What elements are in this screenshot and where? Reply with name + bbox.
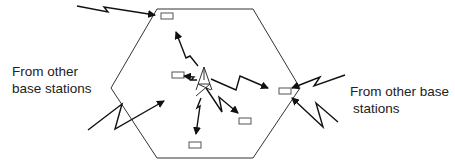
interference-right-upper <box>292 75 345 88</box>
left-label-line1: From other <box>12 63 92 80</box>
left-label-line2: base stations <box>12 80 92 97</box>
signal-to-lower-right <box>206 88 238 113</box>
signal-to-center-left <box>184 76 197 80</box>
signal-to-bottom <box>196 98 201 134</box>
mobile-stations <box>161 13 291 148</box>
downlink-signals <box>176 32 268 134</box>
mobile-center-left <box>172 72 184 78</box>
interference-bottom-left <box>88 101 164 130</box>
mobile-bottom <box>189 142 201 148</box>
antenna-tower-icon <box>196 67 212 96</box>
right-interference-label: From other base stations <box>350 83 449 117</box>
right-label-line2: stations <box>350 100 449 117</box>
left-interference-label: From other base stations <box>12 63 92 97</box>
signal-to-right-mobile <box>211 76 268 90</box>
signal-to-top-mobile <box>176 32 198 66</box>
interference-right-lower <box>292 98 338 127</box>
mobile-top <box>161 13 173 19</box>
mobile-right-edge <box>279 88 291 94</box>
interference-top-left <box>77 6 155 15</box>
mobile-lower-right <box>239 118 251 124</box>
external-interference <box>77 6 345 130</box>
right-label-line1: From other base <box>350 83 449 100</box>
